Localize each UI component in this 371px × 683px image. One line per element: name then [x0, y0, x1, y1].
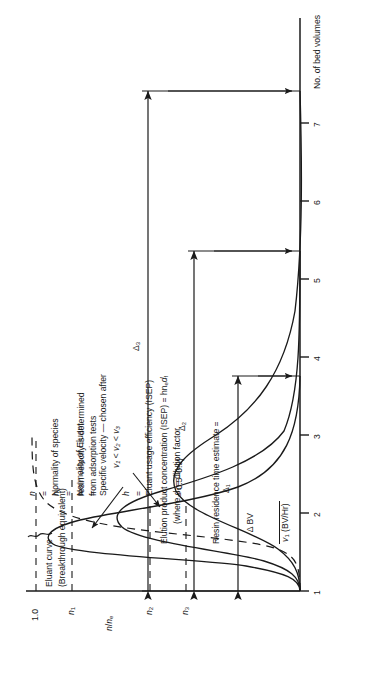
legend-item-v-line2: resin velocity is determined [76, 392, 87, 496]
y-ratio-slash: / [104, 624, 114, 626]
isep-note-sub-e: e [164, 382, 170, 385]
figure-body: n = Normality of species ne = Normality … [0, 0, 371, 683]
figure-page: n = Normality of species ne = Normality … [0, 0, 371, 683]
residence-time-numerator: Δ BV [245, 501, 256, 544]
y-label-n2-sub: 2 [148, 607, 154, 610]
eluant-curve-label: Eluant curve [44, 539, 55, 587]
isep-note-line3: = 0.5–0.9) [174, 458, 185, 497]
x-tick-label-6: 6 [312, 200, 323, 205]
legend-item-v-line3: from adsorption tests [88, 416, 99, 496]
chart-svg [0, 0, 371, 683]
curve-end-markers [168, 91, 292, 376]
residence-time-formula: Resin residence time estimate = Δ BV v1 … [200, 421, 326, 563]
y-label-n1: n1 [66, 607, 78, 615]
residence-time-label: Resin residence time estimate = [211, 421, 221, 544]
residence-v: v [280, 538, 290, 542]
y-ratio-den: n [104, 619, 114, 624]
y-label-n2: n2 [144, 607, 156, 615]
y-label-1-0: 1.0 [30, 609, 41, 621]
residence-v-sub: 1 [285, 534, 291, 537]
delta-3-label: Δ₃ [131, 342, 142, 351]
residence-units: (BV/Hr) [280, 503, 290, 534]
y-label-n1-sub: 1 [70, 607, 76, 610]
eluant-curve-sublabel: (Breakthrough equivalent) [57, 488, 68, 587]
legend-eq-3: = [133, 491, 143, 496]
residence-time-denominator: v1 (BV/Hr) [279, 501, 292, 544]
velocity-order-label: v₁ < v₂ < v₃ [100, 426, 134, 487]
x-tick-label-3: 3 [312, 434, 323, 439]
x-axis-title: No. of bed volumes [312, 15, 323, 89]
y-label-n3: n3 [180, 607, 192, 615]
residence-time-fraction: Δ BV v1 (BV/Hr) [223, 501, 315, 544]
isep-note-sub-f: f [164, 376, 170, 378]
delta-2-label: Δ₂ [177, 422, 188, 431]
x-tick-label-5: 5 [312, 278, 323, 283]
legend-symbol-n: n [27, 491, 37, 496]
legend-symbol-h: h [121, 491, 131, 496]
y-ratio-den-sub: e [108, 616, 114, 619]
isep-note-df: d [159, 378, 169, 383]
y-label-n2-sym: n [144, 610, 154, 615]
x-tick-label-1: 1 [312, 590, 323, 595]
y-label-n1-sym: n [66, 610, 76, 615]
y-label-n3-sym: n [180, 610, 190, 615]
x-tick-label-2: 2 [312, 512, 323, 517]
y-ratio-num: n [104, 626, 114, 631]
delta-1-label: Δ₁ [221, 484, 232, 493]
rotated-figure-canvas: n = Normality of species ne = Normality … [0, 0, 371, 683]
y-label-n3-sub: 3 [184, 607, 190, 610]
x-tick-label-4: 4 [312, 356, 323, 361]
velocity-order-text: v₁ < v₂ < v₃ [111, 426, 121, 468]
y-label-ratio: n/ne [104, 616, 116, 631]
x-tick-label-7: 7 [312, 122, 323, 127]
